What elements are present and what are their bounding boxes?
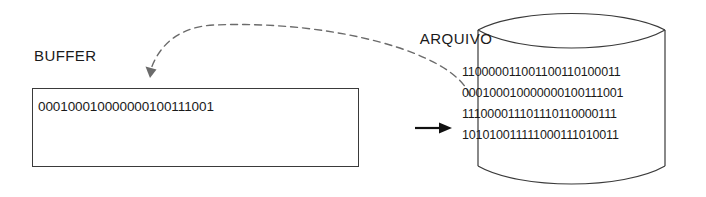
file-row: 101010011111000111010011 — [462, 125, 677, 146]
dashed-curved-arrow-icon — [146, 24, 471, 96]
right-arrow-icon — [415, 123, 452, 134]
diagram-canvas: BUFFER 000100010000000100111001 ARQUIVO … — [0, 0, 706, 197]
file-row: 110000011001100110100011 — [462, 62, 677, 83]
buffer-bit-string: 000100010000000100111001 — [38, 99, 214, 114]
file-row: 000100010000000100111001 — [462, 83, 677, 104]
file-row-list: 110000011001100110100011 000100010000000… — [462, 62, 677, 146]
buffer-label: BUFFER — [34, 47, 96, 64]
file-row: 111000011101110110000111 — [462, 104, 677, 125]
